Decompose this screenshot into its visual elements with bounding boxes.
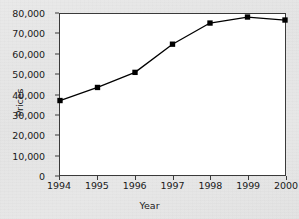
plot-area: [59, 13, 286, 176]
data-point-marker: [57, 98, 62, 103]
x-axis-tick-mark: [286, 176, 287, 180]
x-axis-tick-label: 1999: [236, 180, 260, 191]
x-axis-tick-mark: [248, 176, 249, 180]
y-axis-tick-label: 10,000: [12, 150, 45, 161]
y-axis-tick-mark: [55, 33, 59, 34]
y-axis-tick-label: 60,000: [12, 48, 45, 59]
x-axis-tick-mark: [135, 176, 136, 180]
data-point-marker: [245, 14, 250, 19]
data-point-marker: [170, 42, 175, 47]
x-axis-title: Year: [0, 200, 299, 211]
y-axis-tick-label: 0: [39, 171, 45, 182]
y-axis-tick-mark: [55, 13, 59, 14]
data-point-marker: [95, 85, 100, 90]
y-axis-tick-group: 010,00020,00030,00040,00050,00060,00070,…: [0, 0, 54, 219]
data-point-marker: [132, 70, 137, 75]
y-axis-title: Prices: [14, 73, 25, 133]
x-axis-tick-mark: [59, 176, 60, 180]
data-line: [60, 17, 285, 101]
x-axis-tick-label: 2000: [274, 180, 298, 191]
y-axis-tick-mark: [55, 155, 59, 156]
data-point-marker: [282, 17, 287, 22]
y-axis-tick-mark: [55, 135, 59, 136]
x-axis-tick-label: 1997: [161, 180, 185, 191]
chart-figure: 010,00020,00030,00040,00050,00060,00070,…: [0, 0, 299, 219]
x-axis-tick-label: 1994: [47, 180, 71, 191]
x-axis-tick-label: 1995: [85, 180, 109, 191]
x-axis-tick-mark: [210, 176, 211, 180]
y-axis-tick-mark: [55, 74, 59, 75]
y-axis-tick-mark: [55, 53, 59, 54]
x-axis-tick-mark: [97, 176, 98, 180]
x-axis-tick-label: 1996: [123, 180, 147, 191]
y-axis-tick-mark: [55, 94, 59, 95]
data-point-marker: [207, 20, 212, 25]
x-axis-tick-mark: [173, 176, 174, 180]
y-axis-tick-label: 80,000: [12, 8, 45, 19]
line-series-svg: [60, 14, 285, 175]
y-axis-tick-label: 70,000: [12, 28, 45, 39]
x-axis-tick-label: 1998: [198, 180, 222, 191]
y-axis-tick-mark: [55, 114, 59, 115]
